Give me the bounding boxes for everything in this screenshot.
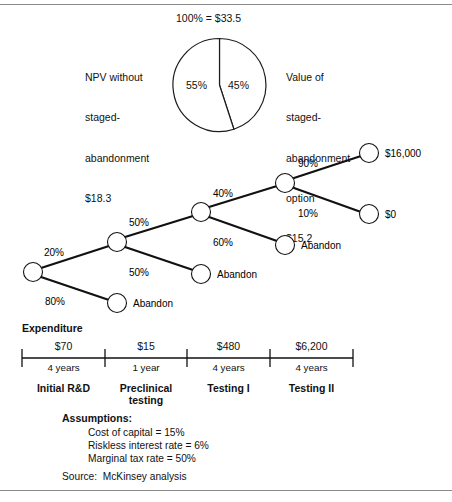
timeline-phase-2: Testing I (187, 382, 270, 394)
assumption-line-1: Cost of capital = 15% (88, 426, 185, 439)
assumption-line-2: Riskless interest rate = 6% (88, 439, 209, 452)
pie-left-caption-line-2: staged- (85, 111, 149, 124)
bottom-divider-rule (0, 490, 452, 491)
timeline-phase-1-line2: testing (105, 394, 187, 406)
timeline-phase-1: Preclinical (105, 382, 187, 394)
tree-node-terminal-0[interactable] (360, 205, 379, 224)
timeline-column-2: $480 4 years Testing I (187, 340, 270, 394)
tree-edge-label-50b: 50% (129, 267, 149, 278)
assumptions-title: Assumptions: (62, 412, 132, 425)
source-note: Source: McKinsey analysis (62, 470, 187, 483)
tree-node-terminal-abandon-3[interactable] (108, 294, 127, 313)
tree-edge-label-90: 90% (298, 158, 318, 169)
timeline-phase-0: Initial R&D (22, 382, 105, 394)
timeline-duration-2: 4 years (187, 362, 270, 373)
pie-right-caption-line-2: staged- (286, 111, 350, 124)
tree-edge-label-20: 20% (44, 247, 64, 258)
tree-node-stage3[interactable] (276, 174, 295, 193)
tree-node-terminal-16000[interactable] (360, 144, 379, 163)
timeline-column-1: $15 1 year Preclinical testing (105, 340, 187, 406)
timeline-amount-0: $70 (22, 340, 105, 352)
timeline-duration-3: 4 years (270, 362, 353, 373)
tree-node-terminal-abandon-2[interactable] (192, 265, 211, 284)
tree-edge-label-10: 10% (298, 208, 318, 219)
tree-edge-label-80: 80% (45, 296, 65, 307)
pie-slice-label-55: 55% (186, 79, 207, 92)
exhibit-figure: 100% = $33.5 NPV without staged- abandon… (0, 0, 452, 502)
pie-right-caption-line-1: Value of (286, 71, 350, 84)
expenditure-title: Expenditure (22, 322, 83, 335)
timeline-phase-3: Testing II (270, 382, 353, 394)
tree-edge-label-60: 60% (213, 237, 233, 248)
tree-terminal-label-16000: $16,000 (385, 148, 422, 159)
tree-edge-label-40: 40% (213, 188, 233, 199)
tree-terminal-label-abandon-3: Abandon (133, 298, 173, 309)
timeline-duration-1: 1 year (105, 362, 187, 373)
pie-total-label: 100% = $33.5 (176, 12, 241, 25)
timeline-amount-2: $480 (187, 340, 270, 352)
decision-tree: 20% 80% 50% 50% 40% 60% 90% 10% $16,000 … (0, 140, 452, 330)
timeline-column-3: $6,200 4 years Testing II (270, 340, 353, 394)
tree-node-terminal-abandon-1[interactable] (276, 236, 295, 255)
tree-node-stage2[interactable] (192, 203, 211, 222)
tree-terminal-label-abandon-2: Abandon (217, 269, 257, 280)
tree-node-stage1[interactable] (108, 233, 127, 252)
tree-node-root[interactable] (24, 263, 43, 282)
timeline-amount-1: $15 (105, 340, 187, 352)
pie-slice-label-45: 45% (228, 79, 249, 92)
tree-terminal-label-abandon-1: Abandon (301, 240, 341, 251)
timeline-amount-3: $6,200 (270, 340, 353, 352)
pie-left-caption-line-1: NPV without (85, 71, 149, 84)
timeline-duration-0: 4 years (22, 362, 105, 373)
assumption-line-3: Marginal tax rate = 50% (88, 452, 196, 465)
timeline-column-0: $70 4 years Initial R&D (22, 340, 105, 394)
tree-terminal-label-0: $0 (385, 209, 397, 220)
tree-edge-label-50a: 50% (129, 217, 149, 228)
